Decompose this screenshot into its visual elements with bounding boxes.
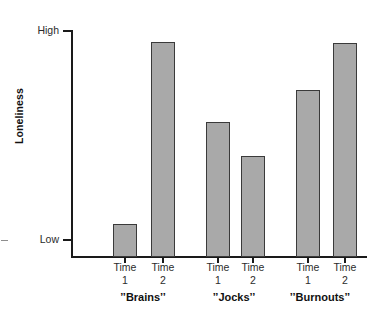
x-label-line2: 2 [231, 274, 275, 287]
x-label-line1: Time [231, 261, 275, 274]
x-label-brains-time2: Time 2 [141, 261, 185, 287]
bar-jocks-time2 [241, 156, 265, 257]
bar-chart-figure: Loneliness High Low Time 1 Time 2 Time 1… [0, 0, 386, 316]
x-label-jocks-time2: Time 2 [231, 261, 275, 287]
group-label-burnouts: ’’Burnouts’’ [260, 291, 380, 303]
bar-brains-time2 [151, 42, 175, 257]
x-label-line1: Time [141, 261, 185, 274]
x-label-line1: Time [323, 261, 367, 274]
bar-jocks-time1 [206, 122, 230, 257]
bar-burnouts-time2 [333, 43, 357, 257]
x-label-line2: 2 [323, 274, 367, 287]
bar-brains-time1 [113, 224, 137, 257]
x-label-line2: 2 [141, 274, 185, 287]
bar-burnouts-time1 [296, 90, 320, 257]
x-label-burnouts-time2: Time 2 [323, 261, 367, 287]
